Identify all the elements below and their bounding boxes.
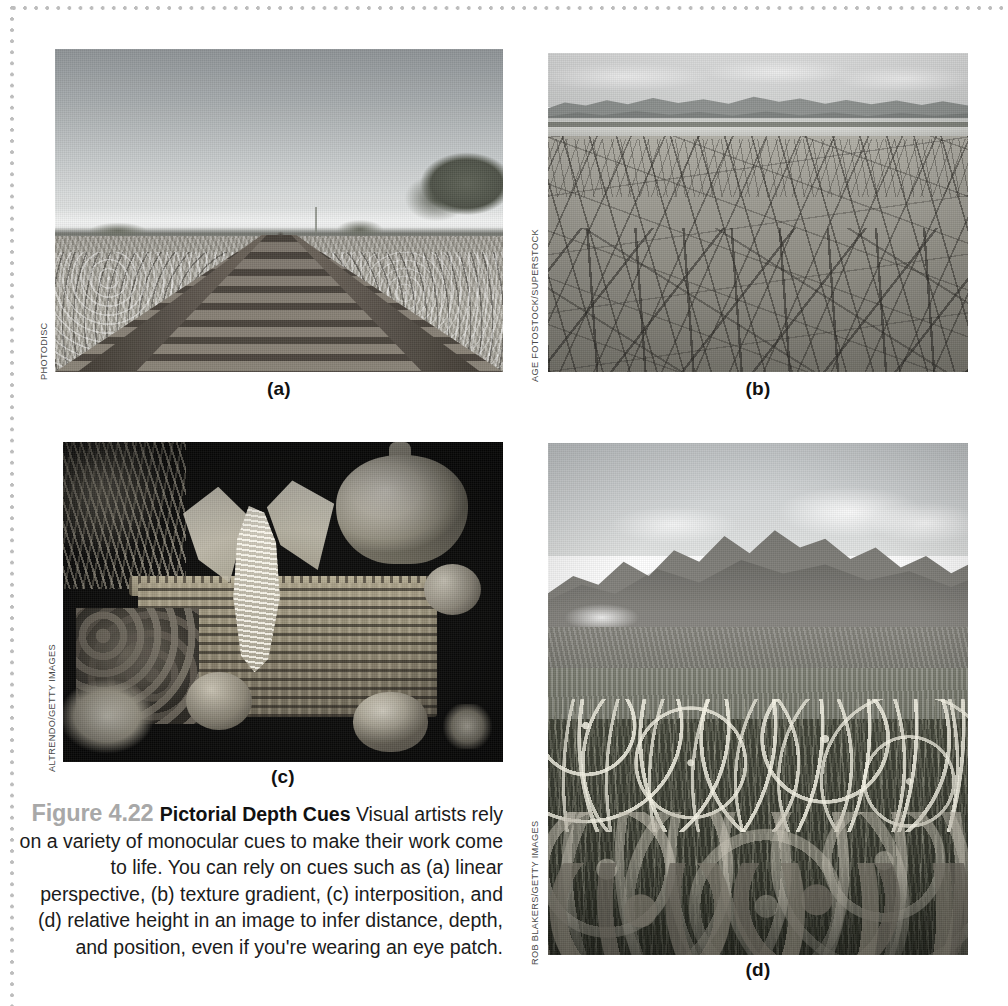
panel-label-c: (c) (189, 766, 377, 788)
photo-texture-gradient (548, 53, 968, 372)
figure-panel-a (55, 49, 503, 372)
photo-credit-a: PHOTODISC (39, 322, 49, 380)
dotted-rule-top (12, 6, 1008, 10)
panel-label-b: (b) (664, 378, 852, 400)
figure-panel-c (63, 442, 503, 762)
photo-credit-b: AGE FOTOSTOCK/SUPERSTOCK (530, 229, 540, 382)
figure-panel-b (548, 53, 968, 372)
figure-caption: Figure 4.22 Pictorial Depth Cues Visual … (18, 800, 503, 961)
photo-credit-c: ALTRENDO/GETTY IMAGES (47, 644, 57, 772)
panel-label-a: (a) (185, 378, 373, 400)
dotted-rule-left (10, 6, 14, 1006)
panel-label-d: (d) (664, 959, 852, 981)
figure-title: Pictorial Depth Cues (160, 803, 351, 825)
photo-interposition (63, 442, 503, 762)
figure-caption-body: Visual artists rely on a variety of mono… (20, 803, 503, 958)
photo-credit-d: ROB BLAKERS/GETTY IMAGES (530, 820, 540, 965)
figure-number: Figure 4.22 (32, 800, 160, 826)
figure-page: PHOTODISC (a) AGE FOTOSTOCK/SUPERSTOCK (… (0, 0, 1008, 1006)
photo-linear-perspective (55, 49, 503, 372)
photo-relative-height (548, 443, 968, 955)
figure-panel-d (548, 443, 968, 955)
